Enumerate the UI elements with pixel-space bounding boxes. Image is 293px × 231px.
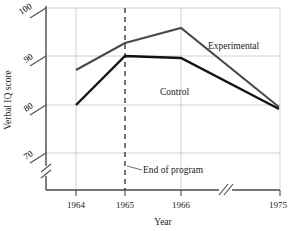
x-tick-marks [76, 190, 280, 196]
chart-container: 100 90 80 70 Verbal IQ score 1964 [0, 0, 293, 231]
end-of-program-leader-line [127, 166, 142, 170]
y-tick-label-70: 70 [22, 148, 35, 162]
series-label-control: Control [160, 87, 189, 97]
x-tick-label-1965: 1965 [116, 200, 135, 210]
y-tick-label-90: 90 [22, 51, 35, 65]
y-tick-label-100: 100 [17, 1, 34, 17]
y-axis-title: Verbal IQ score [3, 70, 13, 130]
y-tick-labels: 100 90 80 70 [17, 1, 35, 162]
gridlines-vertical [76, 8, 280, 189]
x-axis [46, 184, 280, 196]
end-of-program-label: End of program [143, 165, 204, 175]
x-tick-labels: 1964 1965 1966 1975 [67, 200, 288, 210]
series-label-experimental: Experimental [208, 41, 260, 51]
y-tick-label-80: 80 [22, 100, 35, 114]
x-tick-label-1975: 1975 [269, 200, 288, 210]
x-axis-break-icon [219, 184, 233, 195]
y-tick-marks [30, 8, 46, 163]
x-tick-label-1966: 1966 [172, 200, 191, 210]
x-axis-title: Year [154, 217, 172, 227]
x-tick-label-1964: 1964 [67, 200, 86, 210]
line-chart: 100 90 80 70 Verbal IQ score 1964 [0, 0, 293, 231]
y-axis [30, 6, 51, 190]
y-axis-break-icon [41, 164, 51, 178]
